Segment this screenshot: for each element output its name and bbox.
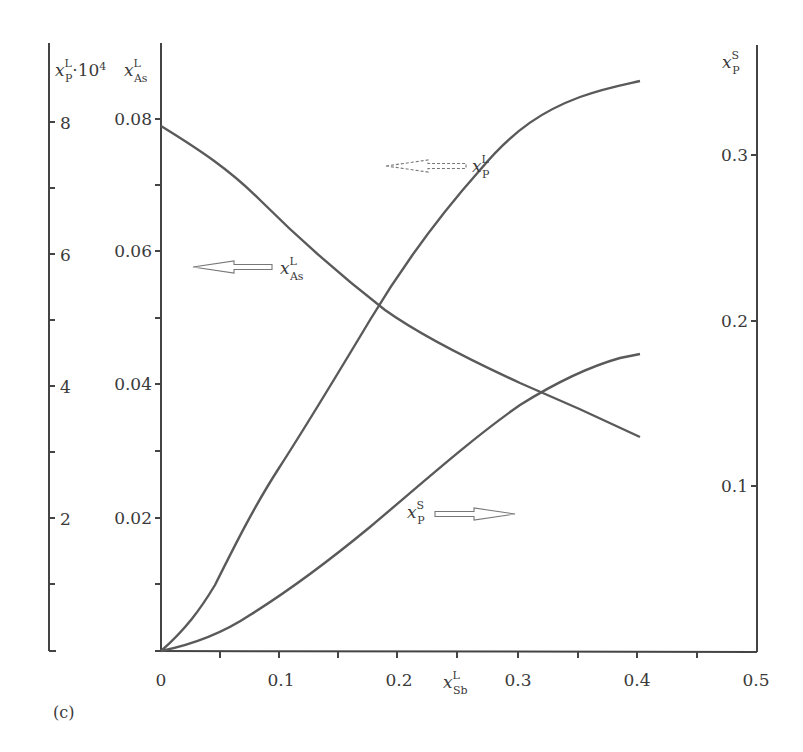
svg-text:xLAs: xLAs — [280, 255, 304, 283]
left-inner-tick-0.02: 0.02 — [114, 508, 152, 528]
right-arrow-icon — [435, 508, 515, 520]
left-arrow-icon — [193, 261, 272, 273]
panel-label: (c) — [53, 703, 74, 722]
bottom-tick-0: 0 — [156, 670, 167, 690]
bottom-tick-0.5: 0.5 — [742, 670, 769, 690]
left-inner-tick-0.06: 0.06 — [114, 241, 152, 261]
left-outer-axis-title: xLP·104 — [55, 57, 106, 85]
bottom-axis: 0 0.1 0.2 0.3 0.4 0.5 xLSb — [155, 651, 770, 697]
left-outer-axis: 8 6 4 2 xLP·104 — [49, 43, 106, 651]
right-tick-0.3: 0.3 — [721, 145, 748, 165]
left-outer-tick-2: 2 — [60, 509, 71, 529]
svg-text:xSP: xSP — [407, 499, 425, 527]
right-axis-title: xSP — [722, 49, 740, 77]
annotation-x-As-L: xLAs — [193, 255, 304, 283]
chart: 8 6 4 2 xLP·104 0.08 0.06 0.04 0.02 xLAs… — [0, 0, 803, 752]
left-outer-tick-4: 4 — [60, 377, 71, 397]
left-outer-tick-6: 6 — [60, 245, 71, 265]
left-inner-axis-title: xLAs — [124, 57, 148, 85]
left-outer-tick-8: 8 — [60, 113, 71, 133]
right-axis: 0.3 0.2 0.1 xSP — [721, 45, 757, 652]
left-inner-axis: 0.08 0.06 0.04 0.02 xLAs — [114, 43, 161, 651]
bottom-tick-0.4: 0.4 — [623, 670, 650, 690]
left-arrow-icon — [386, 160, 466, 172]
left-inner-tick-0.04: 0.04 — [114, 374, 152, 394]
bottom-tick-0.3: 0.3 — [504, 670, 531, 690]
bottom-tick-0.1: 0.1 — [267, 670, 294, 690]
bottom-tick-0.2: 0.2 — [385, 670, 412, 690]
curve-x-P-S — [161, 354, 640, 651]
right-tick-0.2: 0.2 — [721, 311, 748, 331]
annotation-x-P-S: xSP — [407, 499, 515, 527]
bottom-axis-title: xLSb — [443, 669, 467, 697]
right-tick-0.1: 0.1 — [721, 476, 748, 496]
curve-x-As-L — [161, 126, 640, 437]
left-inner-tick-0.08: 0.08 — [114, 109, 152, 129]
